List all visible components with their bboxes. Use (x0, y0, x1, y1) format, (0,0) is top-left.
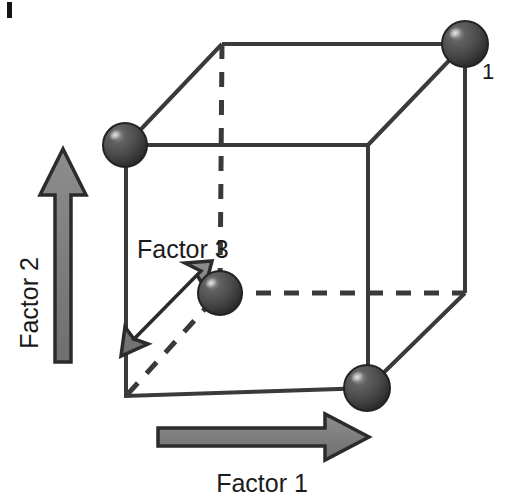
sphere-body (198, 271, 242, 315)
data-point-sphere (103, 123, 147, 167)
factor-3-arrow (121, 261, 212, 356)
page-margin-mark (7, 2, 12, 18)
data-point-sphere (344, 365, 390, 411)
factor-1-arrow (158, 414, 369, 460)
factor-2-label: Factor 2 (15, 257, 43, 349)
cube-front-face-edges (126, 145, 368, 396)
cube-wireframe (126, 44, 465, 396)
factor-2-arrow-shape (40, 149, 86, 362)
sphere-body (344, 365, 390, 411)
factor-1-label: Factor 1 (216, 469, 308, 497)
sphere-body (103, 123, 147, 167)
factor-3-arrow-shape (121, 261, 212, 356)
cube-diagram: Factor 2 Factor 1 Factor 3 (0, 0, 506, 502)
factor-1-arrow-shape (158, 414, 369, 460)
data-point-sphere (198, 271, 242, 315)
figure-container: Factor 2 Factor 1 Factor 3 (0, 0, 506, 502)
factor-2-arrow (40, 149, 86, 362)
corner-value-label: 1 (482, 59, 494, 84)
factor-3-label: Factor 3 (137, 235, 229, 263)
